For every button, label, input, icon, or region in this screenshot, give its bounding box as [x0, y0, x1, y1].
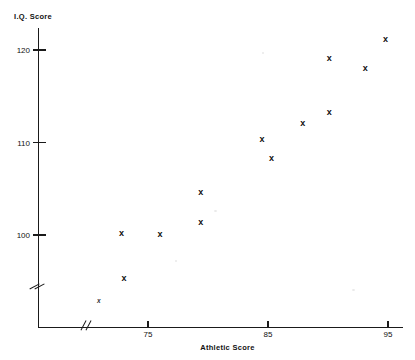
x-tick-label: 95 — [373, 330, 403, 339]
data-point-marker: x — [300, 119, 305, 128]
scan-speckle — [352, 289, 355, 291]
data-point-marker: x — [119, 229, 124, 238]
scan-speckle — [214, 210, 217, 212]
data-point-marker: x — [327, 107, 332, 116]
y-tick-label: 100 — [0, 231, 30, 240]
y-tick-label: 120 — [0, 46, 30, 55]
x-tick-mark — [267, 321, 268, 327]
x-axis-break-icon — [80, 318, 96, 334]
x-axis-title: Athletic Score — [0, 343, 415, 352]
data-point-marker: x — [198, 218, 203, 227]
data-point-marker: x — [363, 63, 368, 72]
offscale-data-point-marker: x — [97, 297, 101, 304]
y-axis-break-icon — [31, 279, 47, 295]
scatter-plot-figure: I.Q. Score Athletic Score 100110120 7585… — [0, 0, 415, 360]
data-point-marker: x — [259, 134, 264, 143]
y-axis-title: I.Q. Score — [14, 12, 52, 21]
data-point-marker: x — [327, 54, 332, 63]
x-tick-label: 85 — [253, 330, 283, 339]
data-point-marker: x — [157, 230, 162, 239]
x-tick-mark — [147, 321, 148, 327]
y-tick-mark — [33, 234, 46, 235]
scan-speckle — [175, 260, 177, 262]
data-point-marker: x — [383, 34, 388, 43]
y-tick-mark — [33, 49, 46, 50]
x-tick-mark — [387, 321, 388, 327]
x-tick-label: 75 — [133, 330, 163, 339]
y-tick-mark — [33, 142, 46, 143]
data-point-marker: x — [198, 187, 203, 196]
y-tick-label: 110 — [0, 138, 30, 147]
data-point-marker: x — [269, 154, 274, 163]
scan-speckle — [262, 52, 264, 54]
data-point-marker: x — [121, 274, 126, 283]
